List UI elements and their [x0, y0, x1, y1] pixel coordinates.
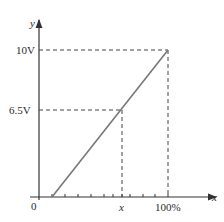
x-tick-label-100pct: 100%	[155, 201, 181, 213]
characteristic-line	[52, 50, 168, 197]
y-tick-label-10v: 10V	[16, 44, 35, 56]
x-tick-label-x: x	[118, 201, 124, 213]
x-axis-label: x	[211, 191, 217, 203]
diagram-canvas: y x 0 10V 6.5V x 100%	[0, 0, 224, 222]
y-axis-label: y	[29, 17, 35, 29]
y-tick-label-6-5v: 6.5V	[9, 104, 31, 116]
origin-label: 0	[31, 200, 37, 212]
dashed-guides	[39, 50, 168, 197]
